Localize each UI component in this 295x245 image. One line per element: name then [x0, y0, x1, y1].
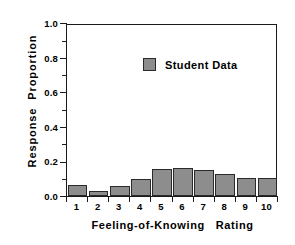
chart-figure: Response Proportion 0.00.20.40.60.81.0 S…: [0, 0, 295, 245]
bar: [173, 168, 193, 196]
plot-area: Student Data: [66, 24, 277, 197]
bar: [152, 169, 172, 196]
bar: [194, 170, 214, 196]
x-tick-label: 10: [254, 201, 278, 212]
bar: [131, 179, 151, 196]
bar: [68, 185, 88, 196]
x-axis-title: Feeling-of-Knowing Rating: [55, 219, 290, 231]
y-tick-label: 0.6: [18, 87, 58, 98]
bar: [258, 178, 278, 196]
legend-swatch-student-data: [143, 58, 156, 71]
bar: [89, 191, 109, 196]
y-tick-label: 0.8: [18, 53, 58, 64]
chart-legend: Student Data: [143, 58, 238, 71]
y-axis-title: Response Proportion: [26, 6, 38, 196]
y-tick-label: 0.0: [18, 191, 58, 202]
legend-label-student-data: Student Data: [165, 59, 238, 71]
bar: [215, 174, 235, 196]
y-tick-label: 0.2: [18, 156, 58, 167]
y-tick-label: 1.0: [18, 18, 58, 29]
y-tick-label: 0.4: [18, 122, 58, 133]
bar: [237, 178, 257, 196]
x-tick: [277, 196, 278, 202]
bar: [110, 186, 130, 196]
